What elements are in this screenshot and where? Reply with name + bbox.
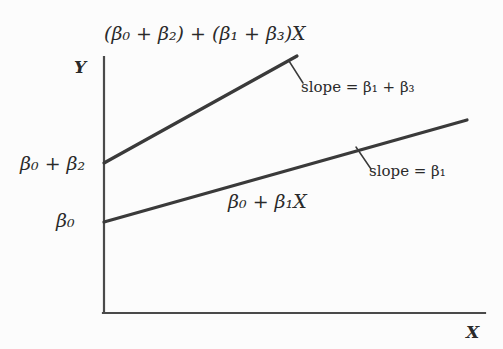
y-axis-label: Y xyxy=(74,59,86,76)
lower-slope-annotation: slope = β₁ xyxy=(369,164,446,179)
upper-regression-line xyxy=(104,56,297,163)
lower-line-equation-label: β₀ + β₁X xyxy=(228,192,307,211)
upper-line-equation-label: (β₀ + β₂) + (β₁ + β₃)X xyxy=(104,24,306,43)
upper-slope-annotation: slope = β₁ + β₃ xyxy=(301,80,415,95)
upper-intercept-label: β₀ + β₂ xyxy=(20,154,85,173)
regression-interaction-figure: Y X (β₀ + β₂) + (β₁ + β₃)X β₀ + β₂ β₀ β₀… xyxy=(0,0,503,349)
lower-intercept-label: β₀ xyxy=(56,211,75,230)
x-axis-label: X xyxy=(466,324,480,341)
